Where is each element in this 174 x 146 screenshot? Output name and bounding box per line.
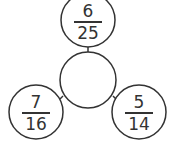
denominator: 16	[16, 115, 56, 133]
fraction-top: 6 25	[68, 2, 108, 42]
fraction-bottom-right: 5 14	[119, 93, 159, 133]
fraction-bottom-left: 7 16	[16, 93, 56, 133]
denominator: 14	[119, 115, 159, 133]
connector-right	[113, 96, 116, 99]
center-circle[interactable]	[60, 52, 116, 108]
numerator: 6	[68, 2, 108, 20]
denominator: 25	[68, 24, 108, 42]
numerator: 5	[119, 93, 159, 111]
numerator: 7	[16, 93, 56, 111]
connector-left	[60, 96, 63, 99]
